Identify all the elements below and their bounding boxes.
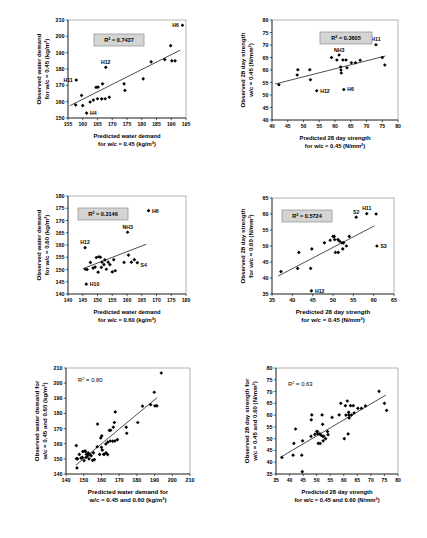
x-tick-label: 140 [64,297,73,303]
point-label: H11 [371,36,380,42]
y-tick-label: 55 [262,80,268,86]
x-axis-title-line2: for w/c = 0.45 (kg/m3) [98,140,156,147]
x-axis-title-line1: Predicted water demand for [88,488,169,495]
x-tick-label: 65 [354,477,360,483]
r2-annotation: R2 = 0.3146 [78,208,128,220]
y-tick-label: 60 [266,412,272,418]
x-axis-title-line1: Predicted water demand [93,133,160,139]
x-axis-ticks: 140150160170180190200210 [62,474,195,483]
y-tick-label: 150 [55,115,64,121]
x-tick-label: 190 [150,477,159,483]
x-tick-label: 35 [273,477,279,483]
x-axis-ticks: 35404550556065707580 [273,474,401,483]
x-tick-label: 200 [168,477,177,483]
x-tick-label: 160 [79,121,88,127]
x-tick-label: 70 [368,477,374,483]
plot-water-demand-045: 1551601651701751801851901951501601701801… [22,8,208,180]
x-tick-label: 45 [310,297,316,303]
x-tick-label: 165 [93,121,102,127]
y-tick-label: 140 [53,471,62,477]
y-tick-label: 170 [55,82,64,88]
y-axis-ticks: 150160170180190200210 [55,17,68,121]
y-tick-label: 180 [55,66,64,72]
x-tick-label: 35 [269,297,275,303]
y-tick-label: 190 [53,395,62,401]
point-label: H11 [64,77,73,83]
x-axis-ticks: 155160165170175180185190195 [64,118,191,127]
plot-water-demand-combined: 1401501601701801902002101401501601701801… [18,358,218,536]
x-axis-title-line2: for w/c = 0.45 (N/mm2) [301,316,364,323]
point-label: H6 [152,208,159,214]
x-tick-label: 170 [108,121,117,127]
r2-annotation: R2 = 0.7437 [94,34,144,46]
y-tick-label: 40 [262,275,268,281]
x-tick-label: 150 [79,477,88,483]
point-label: H12 [80,239,90,245]
x-tick-label: 155 [108,297,117,303]
y-tick-label: 80 [266,365,272,371]
y-tick-label: 60 [262,211,268,217]
x-tick-label: 75 [382,477,388,483]
y-tick-label: 160 [53,441,62,447]
x-axis-ticks: 140145150155160165170175180 [64,294,191,303]
y-tick-label: 40 [266,459,272,465]
x-tick-label: 145 [79,297,88,303]
point-label: S3 [380,243,386,249]
y-tick-label: 50 [262,243,268,249]
x-axis-title-line2: for w/c = 0.45 (N/mm2) [305,142,365,149]
x-tick-label: 150 [93,297,102,303]
y-axis-ticks: 35404550556065707580 [266,365,276,477]
x-axis-ticks: 35404550556065 [269,294,397,303]
x-tick-label: 45 [285,123,291,129]
y-axis-ticks: 404550556065707580 [262,17,272,123]
chart-strength-combined: 3540455055606570758035404550556065707580… [230,358,424,536]
x-tick-label: 210 [186,477,195,483]
x-tick-label: 160 [97,477,106,483]
r2-annotation: R2 = 0.3605 [320,32,372,44]
chart-strength-045: 404550556065707580404550556065707580H12N… [224,8,424,180]
x-tick-label: 180 [132,477,141,483]
y-axis-ticks: 35404550556065 [262,195,272,297]
y-tick-label: 180 [55,193,64,199]
x-tick-label: 160 [123,297,132,303]
x-tick-label: 155 [64,121,73,127]
point-label: H4 [90,110,97,116]
y-tick-label: 200 [55,33,64,39]
x-tick-label: 75 [379,123,385,129]
x-axis-title-line2: for w/c = 0.60 (kg/m3) [98,316,156,323]
chart-water-demand-combined: 1401501601701801902002101401501601701801… [18,358,218,536]
y-axis-title-line2: for w/c = 0.45 (kg/m3) [43,39,50,100]
x-tick-label: 180 [182,297,191,303]
y-axis-ticks: 140145150155160165170175180 [55,193,68,297]
x-tick-label: 180 [138,121,147,127]
y-tick-label: 60 [262,67,268,73]
plot-water-demand-060: 1401451501551601651701751801401451501551… [22,186,212,358]
y-tick-label: 45 [262,259,268,265]
x-tick-label: 60 [341,477,347,483]
point-label: H6 [347,86,354,92]
y-tick-label: 40 [262,117,268,123]
point-label: NH3 [122,224,132,230]
y-tick-label: 45 [262,105,268,111]
x-tick-label: 80 [395,477,401,483]
y-tick-label: 210 [53,365,62,371]
y-tick-label: 70 [266,389,272,395]
y-axis-title-line2: for w/c = 0.60 (N/mm2) [247,214,254,277]
x-tick-label: 50 [301,123,307,129]
x-tick-label: 175 [123,121,132,127]
y-axis-title-line2: for w/c = 0.60 (kg/m3) [43,215,50,276]
point-label: NH3 [334,47,344,53]
point-label: H12 [320,88,330,94]
x-axis-title-line1: Predicted 28 day strength [300,135,371,141]
x-tick-label: 165 [138,297,147,303]
y-tick-label: 65 [262,195,268,201]
x-tick-label: 65 [348,123,354,129]
plot-strength-060: 3540455055606535404550556065H12S2H11S3R2… [228,186,420,358]
y-tick-label: 55 [262,227,268,233]
x-tick-label: 50 [314,477,320,483]
r2-annotation: R2 = 0.63 [288,380,313,387]
y-axis-title-line1: Observed water demand [35,209,42,280]
y-tick-label: 155 [55,254,64,260]
y-tick-label: 75 [262,30,268,36]
y-tick-label: 165 [55,230,64,236]
